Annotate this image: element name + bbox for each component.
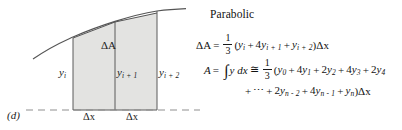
figure-page: (d) ΔA yi yi + 1 yi + 2 Δx Δx Parabolic …	[0, 0, 402, 130]
equations-title: Parabolic	[210, 8, 254, 20]
total-area-lhs: A	[204, 64, 211, 76]
term-y0: y0	[278, 63, 287, 77]
term-2y2: 2y2	[321, 63, 336, 77]
ordinate-label-yi1: yi + 1	[117, 67, 137, 79]
ordinate-label-yi2: yi + 2	[159, 67, 179, 79]
delta-x-factor: Δx	[316, 39, 329, 51]
width-label-first: Δx	[83, 112, 95, 123]
term-4yi1: 4yi + 1	[256, 38, 282, 52]
delta-area-lhs: ΔA	[196, 39, 211, 51]
diagram-svg	[0, 0, 205, 130]
plus-sign: +	[311, 64, 321, 76]
one-third-fraction: 1 3	[263, 58, 272, 81]
delta-area-label: ΔA	[101, 40, 116, 51]
term-4y1: 4y1	[297, 63, 312, 77]
fraction-numerator: 1	[263, 58, 272, 69]
equation-total-area: A = ∫ y dx ≅ 1 3 ( y0 + 4y1 + 2y2 + 4y3 …	[204, 58, 385, 81]
fraction-denominator: 3	[263, 69, 272, 81]
term-4yn-1: 4yn - 1	[310, 84, 335, 98]
term-yi: yi	[238, 38, 245, 52]
equals-sign: =	[211, 64, 221, 76]
fraction-denominator: 3	[223, 44, 232, 56]
equation-total-area-continuation: + ⋯ + 2yn - 2 + 4yn - 1 + yn ) Δx	[243, 84, 371, 98]
plus-sign: +	[335, 85, 345, 97]
integrand: y dx	[229, 64, 247, 76]
delta-x-factor: Δx	[358, 85, 371, 97]
term-yn: yn	[345, 84, 354, 98]
ordinate-label-yi: yi	[59, 67, 66, 79]
equations-block: Parabolic ΔA = 1 3 ( yi + 4yi + 1 + yi +…	[196, 0, 402, 130]
plus-sign: +	[243, 85, 253, 97]
panel-letter-label: (d)	[7, 110, 20, 121]
plus-sign: +	[245, 39, 255, 51]
approx-equals-sign: ≅	[248, 63, 261, 76]
one-third-fraction: 1 3	[223, 33, 232, 56]
plus-sign: +	[336, 64, 346, 76]
parabolic-rule-diagram: (d) ΔA yi yi + 1 yi + 2 Δx Δx	[0, 0, 205, 130]
ellipsis: ⋯	[253, 84, 264, 97]
term-yi2: yi + 2	[292, 38, 313, 52]
equals-sign: =	[211, 39, 221, 51]
plus-sign: +	[264, 85, 274, 97]
fraction-numerator: 1	[223, 33, 232, 44]
equation-delta-area: ΔA = 1 3 ( yi + 4yi + 1 + yi + 2 ) Δx	[196, 33, 329, 56]
term-4y3: 4y3	[346, 63, 361, 77]
width-label-second: Δx	[126, 112, 138, 123]
plus-sign: +	[300, 85, 310, 97]
plus-sign: +	[286, 64, 296, 76]
plus-sign: +	[282, 39, 292, 51]
plus-sign: +	[361, 64, 371, 76]
term-2yn-2: 2yn - 2	[274, 84, 299, 98]
term-2y4: 2y4	[371, 63, 386, 77]
